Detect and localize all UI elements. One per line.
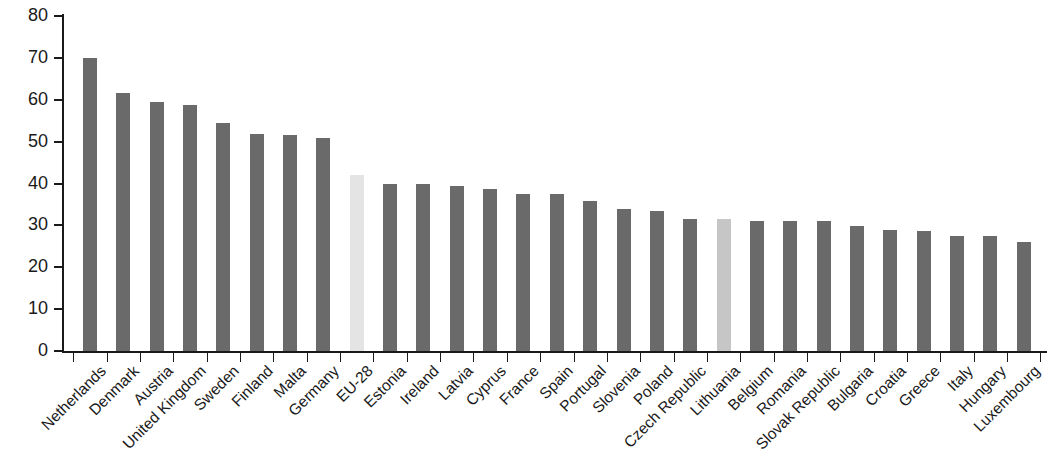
bar	[450, 186, 464, 351]
bar	[383, 184, 397, 351]
bar	[283, 135, 297, 351]
x-axis-tick-mark	[73, 353, 74, 362]
bar	[316, 138, 330, 351]
bar	[116, 93, 130, 351]
y-axis-tick-mark	[54, 99, 62, 101]
bar	[483, 189, 497, 351]
y-axis-tick-mark	[54, 224, 62, 226]
y-axis-tick-label: 10	[28, 298, 48, 318]
y-axis-tick-mark	[54, 266, 62, 268]
y-axis-tick-mark	[54, 308, 62, 310]
y-axis-tick-label: 70	[28, 47, 48, 67]
y-axis-tick-mark	[54, 57, 62, 59]
bar	[350, 175, 364, 351]
bar	[583, 201, 597, 351]
y-axis-tick-label: 60	[28, 89, 48, 109]
y-axis-tick-label: 30	[28, 214, 48, 234]
category-labels-container: NetherlandsDenmarkAustriaUnited KingdomS…	[62, 362, 1052, 473]
bar	[983, 236, 997, 351]
y-axis-tick-mark	[54, 350, 62, 352]
y-axis-tick-label: 40	[28, 173, 48, 193]
y-axis-tick-label: 20	[28, 256, 48, 276]
bar-chart: 80706050403020100 NetherlandsDenmarkAust…	[0, 0, 1052, 473]
y-axis-tick-label: 0	[38, 340, 48, 360]
y-axis-tick-label: 80	[28, 5, 48, 25]
y-axis-tick-mark	[54, 141, 62, 143]
bar	[516, 194, 530, 351]
bar	[183, 105, 197, 351]
y-axis-tick-mark	[54, 183, 62, 185]
bar	[416, 184, 430, 351]
y-axis-tick-mark	[54, 15, 62, 17]
bar	[216, 123, 230, 351]
y-axis-tick-label: 50	[28, 131, 48, 151]
bar	[83, 58, 97, 351]
bar	[550, 194, 564, 351]
